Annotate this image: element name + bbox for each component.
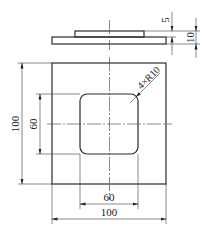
side-view: 5 10	[52, 12, 200, 58]
dim-text-5: 5	[159, 17, 171, 23]
plate-outline	[52, 37, 166, 44]
front-view: 100 60 60 100 4×R10	[9, 57, 172, 224]
technical-drawing: 5 10 100 60 60 100	[0, 0, 206, 235]
radius-label: 4×R10	[135, 64, 162, 91]
radius-leader-tail	[130, 97, 136, 103]
dim-text-100-horizontal: 100	[101, 206, 118, 218]
dim-text-100-vertical: 100	[9, 115, 21, 132]
dim-text-10: 10	[184, 32, 196, 44]
dim-text-60-horizontal: 60	[104, 191, 116, 203]
dim-text-60-vertical: 60	[27, 118, 39, 130]
